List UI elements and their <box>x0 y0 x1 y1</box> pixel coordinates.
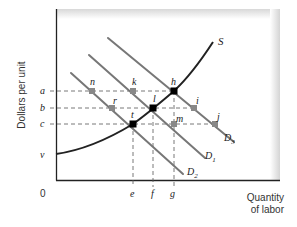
label-supply: S <box>218 35 224 47</box>
tick-c: c <box>40 118 45 129</box>
tick-a: a <box>40 85 45 96</box>
tick-v: v <box>40 149 45 160</box>
label-i: i <box>196 95 199 106</box>
point-n <box>89 88 95 94</box>
tick-e: e <box>130 188 135 199</box>
label-d1: D1 <box>204 150 216 164</box>
point-h <box>171 88 178 95</box>
label-l: l <box>153 93 156 104</box>
label-d2: D2 <box>186 166 198 180</box>
tick-g: g <box>170 188 175 199</box>
label-j: j <box>215 111 220 122</box>
label-r: r <box>113 95 117 106</box>
x-tick-labels: 0 e f g <box>40 188 175 199</box>
tick-f: f <box>151 188 155 199</box>
label-m: m <box>176 113 183 124</box>
y-tick-labels: a b c v <box>40 85 45 160</box>
label-n: n <box>90 76 95 87</box>
labor-market-diagram: n k h r l i t m j S D3 D1 D2 a b c v 0 e… <box>0 0 297 227</box>
x-axis-title-line2: of labor <box>251 204 285 215</box>
label-d3: D3 <box>223 132 235 146</box>
label-k: k <box>132 76 137 87</box>
axes <box>56 9 280 181</box>
origin-label: 0 <box>40 188 46 199</box>
label-t: t <box>131 109 134 120</box>
point-k <box>130 88 136 94</box>
x-axis-title-line1: Quantity <box>247 192 284 203</box>
point-labels: n k h r l i t m j <box>90 76 220 124</box>
point-t <box>130 121 137 128</box>
point-l <box>150 105 157 112</box>
tick-b: b <box>40 102 45 113</box>
y-axis-title: Dollars per unit <box>16 61 27 128</box>
label-h: h <box>171 76 176 87</box>
